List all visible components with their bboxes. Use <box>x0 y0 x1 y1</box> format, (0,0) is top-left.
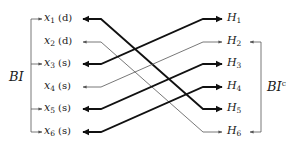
node-x5: x5(s) <box>44 102 71 115</box>
node-x6: x6(s) <box>44 125 71 138</box>
right-group-label: BIc <box>267 80 286 93</box>
node-H5: H5 <box>227 102 241 115</box>
node-x3: x3(s) <box>44 57 71 70</box>
node-H1: H1 <box>227 12 241 25</box>
node-x4: x4(s) <box>44 80 71 93</box>
node-H6: H6 <box>227 125 241 138</box>
edge-x6-H4 <box>83 87 222 132</box>
node-x1: x1(d) <box>44 12 72 25</box>
edge-x5-H3 <box>83 64 222 109</box>
node-H3: H3 <box>227 57 241 70</box>
edges-layer <box>83 19 222 132</box>
bipartite-diagram: x1(d)x2(d)x3(s)x4(s)x5(s)x6(s) H1H2H3H4H… <box>0 0 301 143</box>
node-H2: H2 <box>227 35 241 48</box>
node-x2: x2(d) <box>44 35 72 48</box>
node-H4: H4 <box>227 80 241 93</box>
edge-x3-H1 <box>83 19 222 64</box>
left-group-label: BI <box>9 70 24 83</box>
